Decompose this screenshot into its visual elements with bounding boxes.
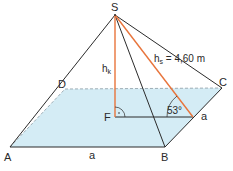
label-c: C bbox=[219, 76, 227, 88]
apex-dot bbox=[114, 14, 116, 16]
label-hs: hs = 4,60 m bbox=[154, 53, 205, 65]
right-angle-dot bbox=[118, 112, 120, 114]
label-f: F bbox=[104, 111, 111, 123]
label-side-ab: a bbox=[89, 149, 96, 161]
label-side-bc: a bbox=[201, 110, 208, 122]
label-angle: 53° bbox=[167, 105, 182, 116]
label-s: S bbox=[111, 1, 118, 13]
label-a: A bbox=[4, 151, 12, 163]
edge-sc bbox=[115, 15, 222, 88]
label-hk: hk bbox=[102, 63, 112, 75]
pyramid-diagram: S A B C D F a a hk hs = 4,60 m 53° bbox=[0, 0, 233, 171]
label-d: D bbox=[58, 78, 66, 90]
label-b: B bbox=[161, 151, 168, 163]
